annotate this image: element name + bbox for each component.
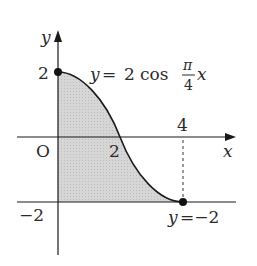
line-eq-lhs: y: [167, 207, 178, 227]
x-axis-arrow-icon: [225, 133, 236, 141]
tick-x-2: 2: [109, 141, 120, 161]
eq-lhs: y: [89, 64, 100, 84]
line-eq-rhs: =−2: [180, 207, 219, 227]
x-axis-label: x: [223, 141, 233, 161]
y-axis-arrow-icon: [54, 30, 62, 42]
eq-var: x: [197, 64, 207, 84]
point-4-minus2: [179, 198, 187, 206]
point-0-2: [54, 68, 62, 76]
curve-equation: y = 2 cos π 4 x: [89, 57, 207, 93]
eq-equals: =: [102, 64, 116, 84]
eq-frac-den: 4: [184, 77, 193, 93]
tick-y-minus-2: −2: [19, 205, 44, 225]
tick-y-2: 2: [38, 63, 49, 83]
eq-frac-num: π: [182, 57, 193, 73]
eq-func: cos: [140, 64, 168, 84]
y-axis-label: y: [40, 27, 51, 47]
origin-label: O: [36, 141, 50, 161]
eq-coef: 2: [124, 64, 135, 84]
graph-canvas: y x O 2 −2 2 4 y = 2 cos π 4 x y =−2: [0, 0, 257, 266]
line-equation: y =−2: [167, 207, 219, 227]
tick-x-4: 4: [177, 115, 188, 135]
